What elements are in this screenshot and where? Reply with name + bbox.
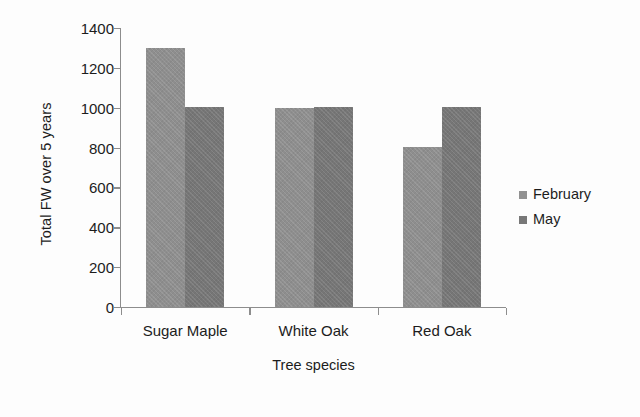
x-axis-end-tick-mark bbox=[506, 308, 507, 315]
y-axis-tick-label: 1200 bbox=[56, 60, 114, 75]
x-axis-tick-mark bbox=[249, 308, 250, 315]
y-axis-tick-mark bbox=[114, 267, 120, 268]
chart-legend: FebruaryMay bbox=[519, 182, 591, 232]
x-axis-category-labels: Sugar MapleWhite OakRed Oak bbox=[121, 322, 506, 346]
y-axis-tick-mark bbox=[114, 307, 120, 308]
bar-may-red-oak bbox=[442, 107, 481, 307]
x-axis-category-label: Sugar Maple bbox=[143, 322, 228, 340]
legend-label: May bbox=[533, 212, 560, 227]
y-axis-tick-label: 600 bbox=[56, 180, 114, 195]
y-axis-tick-labels: 0200400600800100012001400 bbox=[56, 28, 114, 307]
legend-item-may[interactable]: May bbox=[519, 207, 591, 232]
y-axis-tick-label: 800 bbox=[56, 140, 114, 155]
x-axis-line bbox=[120, 307, 506, 308]
bar-may-sugar-maple bbox=[185, 107, 224, 307]
bar-february-red-oak bbox=[403, 147, 442, 307]
x-axis-category-label: Red Oak bbox=[412, 322, 471, 340]
y-axis-tick-mark bbox=[114, 28, 120, 29]
legend-label: February bbox=[533, 187, 591, 202]
legend-swatch-icon bbox=[519, 191, 527, 199]
x-axis-tick-mark bbox=[378, 308, 379, 315]
x-axis-end-tick-mark bbox=[121, 308, 122, 315]
y-axis-tick-mark bbox=[114, 108, 120, 109]
y-axis-tick-label: 0 bbox=[56, 300, 114, 315]
y-axis-tick-mark bbox=[114, 148, 120, 149]
bar-february-white-oak bbox=[275, 108, 314, 307]
bar-february-sugar-maple bbox=[146, 48, 185, 307]
bar-may-white-oak bbox=[314, 107, 353, 307]
y-axis-title: Total FW over 5 years bbox=[38, 49, 54, 299]
y-axis-tick-label: 200 bbox=[56, 260, 114, 275]
y-axis-tick-mark bbox=[114, 187, 120, 188]
x-axis-title: Tree species bbox=[121, 357, 506, 373]
y-axis-tick-label: 400 bbox=[56, 220, 114, 235]
legend-swatch-icon bbox=[519, 216, 527, 224]
bar-chart-figure: Total FW over 5 years 020040060080010001… bbox=[0, 0, 640, 417]
y-axis-tick-label: 1400 bbox=[56, 21, 114, 36]
y-axis-tick-mark bbox=[114, 68, 120, 69]
legend-item-february[interactable]: February bbox=[519, 182, 591, 207]
y-axis-tick-mark bbox=[114, 227, 120, 228]
plot-area bbox=[121, 28, 506, 307]
x-axis-category-label: White Oak bbox=[278, 322, 348, 340]
y-axis-tick-label: 1000 bbox=[56, 100, 114, 115]
